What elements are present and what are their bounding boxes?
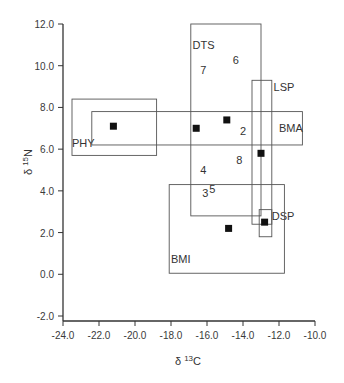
square-marker [261, 219, 268, 226]
box-label-dts: DTS [193, 39, 215, 51]
x-tick-label: -12.0 [268, 330, 291, 341]
x-tick-label: -14.0 [232, 330, 255, 341]
square-marker [258, 150, 265, 157]
y-axis-title: δ 15N [21, 149, 34, 175]
square-marker [110, 123, 117, 130]
x-tick-label: -16.0 [196, 330, 219, 341]
annotation-3: 3 [202, 187, 208, 199]
box-label-bma: BMA [279, 122, 304, 134]
square-marker [225, 225, 232, 232]
y-tick-label: 12.0 [35, 19, 55, 30]
y-ticks: 12.010.08.06.04.02.00.0-2.0 [35, 19, 63, 322]
y-tick-label: -2.0 [37, 311, 55, 322]
scatter-chart: PHYBMADTSLSPDSPBMI 7628435 12.010.08.06.… [0, 0, 344, 383]
y-tick-label: 10.0 [35, 61, 55, 72]
x-tick-label: -24.0 [52, 330, 75, 341]
y-tick-label: 2.0 [40, 228, 54, 239]
box-label-dsp: DSP [272, 210, 295, 222]
annotation-8: 8 [236, 154, 242, 166]
y-tick-label: 6.0 [40, 144, 54, 155]
annotation-5: 5 [209, 183, 215, 195]
annotation-7: 7 [200, 64, 206, 76]
x-tick-label: -10.0 [304, 330, 327, 341]
y-tick-label: 0.0 [40, 269, 54, 280]
box-label-lsp: LSP [274, 81, 295, 93]
annotation-4: 4 [200, 164, 206, 176]
box-label-bmi: BMI [171, 253, 191, 265]
square-marker [223, 116, 230, 123]
x-tick-label: -20.0 [124, 330, 147, 341]
y-tick-label: 4.0 [40, 186, 54, 197]
x-ticks: -24.0-22.0-20.0-18.0-16.0-14.0-12.0-10.0 [52, 321, 327, 341]
annotation-2: 2 [240, 125, 246, 137]
x-tick-label: -18.0 [160, 330, 183, 341]
annotation-6: 6 [233, 54, 239, 66]
square-marker [193, 125, 200, 132]
y-tick-label: 8.0 [40, 102, 54, 113]
range-boxes: PHYBMADTSLSPDSPBMI [72, 24, 304, 273]
point-annotations: 7628435 [200, 54, 246, 199]
x-tick-label: -22.0 [88, 330, 111, 341]
axes: 12.010.08.06.04.02.00.0-2.0 -24.0-22.0-2… [21, 19, 327, 367]
x-axis-title: δ 13C [175, 354, 201, 367]
